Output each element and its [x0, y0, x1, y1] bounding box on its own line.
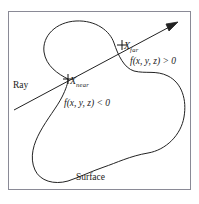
surface-label: Surface — [76, 173, 105, 183]
x-far-label: Xfar — [124, 41, 138, 54]
x-near-label: Xnear — [70, 76, 89, 89]
ray-label: Ray — [13, 81, 28, 91]
f-negative-label: f(x, y, z) < 0 — [64, 99, 110, 109]
x-far-subscript: far — [130, 46, 138, 53]
figure-container: Ray Xnear Xfar f(x, y, z) > 0 f(x, y, z)… — [0, 0, 199, 204]
x-near-subscript: near — [76, 81, 89, 88]
f-positive-label: f(x, y, z) > 0 — [130, 57, 176, 67]
